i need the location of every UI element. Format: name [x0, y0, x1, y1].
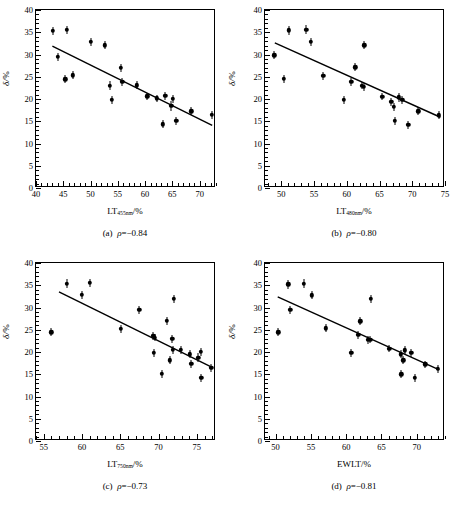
panel-caption-c: (c) ρ=−0.73	[35, 481, 215, 491]
x-tick-label: 60	[141, 190, 150, 199]
regression-line-c	[36, 263, 214, 439]
x-tick-label: 50	[86, 190, 95, 199]
x-tick-label: 40	[32, 190, 41, 199]
y-tick-label: 35	[254, 281, 263, 290]
x-axis-label: LT750nm/%	[35, 459, 215, 469]
scatter-panel-d: δ/%05101520253035405055606570EWLT/%(d) ρ…	[226, 253, 453, 506]
x-tick-label: 70	[413, 443, 422, 452]
x-tick-label: 65	[168, 190, 177, 199]
plot-area-c: 05101520253035405560657075	[35, 262, 215, 440]
x-axis-label: EWLT/%	[264, 459, 444, 469]
plot-area-d: 05101520253035405055606570	[264, 262, 444, 440]
x-axis-label: LT455nm/%	[35, 206, 215, 216]
y-tick-label: 15	[254, 370, 263, 379]
y-tick-label: 15	[25, 370, 34, 379]
x-tick-label: 75	[441, 190, 450, 199]
y-tick-label: 15	[25, 117, 34, 126]
x-tick-label: 60	[78, 443, 87, 452]
y-tick-label: 35	[25, 28, 34, 37]
x-tick	[445, 436, 446, 439]
y-tick-label: 15	[254, 117, 263, 126]
x-tick-label: 45	[59, 190, 68, 199]
panel-caption-a: (a) ρ=−0.84	[35, 228, 215, 238]
y-tick-label: 40	[25, 6, 34, 15]
y-tick-label: 40	[254, 6, 263, 15]
regression-line-d	[265, 263, 443, 439]
y-axis-label: δ/%	[227, 46, 237, 86]
x-tick-label: 55	[114, 190, 123, 199]
plot-area-a: 051015202530354040455055606570	[35, 9, 215, 187]
y-tick-label: 30	[254, 50, 263, 59]
figure-panel-grid: δ/%051015202530354040455055606570LT455nm…	[0, 0, 453, 506]
y-tick-label: 0	[258, 184, 262, 193]
x-tick-label: 60	[342, 443, 351, 452]
y-tick-label: 5	[258, 415, 262, 424]
y-axis-label: δ/%	[227, 299, 237, 339]
scatter-panel-c: δ/%05101520253035405560657075LT750nm/%(c…	[0, 253, 226, 506]
y-tick	[265, 441, 270, 442]
regression-line-b	[265, 10, 443, 186]
y-tick-label: 35	[25, 281, 34, 290]
y-tick-label: 25	[254, 326, 263, 335]
panel-caption-d: (d) ρ=−0.81	[264, 481, 444, 491]
x-axis-label: LT480nm/%	[264, 206, 444, 216]
x-tick-label: 65	[375, 190, 384, 199]
plot-area-b: 0510152025303540505560657075	[264, 9, 444, 187]
y-tick-label: 20	[25, 348, 34, 357]
x-tick-label: 55	[307, 443, 316, 452]
panel-caption-b: (b) ρ=−0.80	[264, 228, 444, 238]
y-tick-label: 30	[254, 303, 263, 312]
y-tick-label: 0	[258, 437, 262, 446]
x-tick	[445, 181, 446, 186]
x-tick-label: 75	[193, 443, 202, 452]
y-tick-label: 10	[254, 139, 263, 148]
y-tick-label: 20	[25, 95, 34, 104]
x-tick-label: 50	[271, 443, 280, 452]
x-tick-label: 70	[154, 443, 163, 452]
scatter-panel-b: δ/%0510152025303540505560657075LT480nm/%…	[226, 0, 453, 253]
y-tick-label: 30	[25, 303, 34, 312]
y-tick-label: 40	[254, 259, 263, 268]
y-tick-label: 10	[25, 139, 34, 148]
regression-line-a	[36, 10, 214, 186]
x-tick-label: 55	[39, 443, 48, 452]
y-tick-label: 10	[25, 392, 34, 401]
y-tick-label: 35	[254, 28, 263, 37]
y-tick-label: 5	[29, 415, 33, 424]
y-axis-label: δ/%	[1, 46, 11, 86]
y-tick-label: 5	[29, 162, 33, 171]
x-tick-label: 65	[377, 443, 386, 452]
y-tick-label: 20	[254, 95, 263, 104]
y-tick-label: 5	[258, 162, 262, 171]
x-tick-label: 70	[408, 190, 417, 199]
y-axis-label: δ/%	[1, 299, 11, 339]
x-tick-label: 65	[116, 443, 125, 452]
x-tick-label: 60	[343, 190, 352, 199]
y-tick-label: 0	[29, 437, 33, 446]
y-tick	[265, 188, 270, 189]
y-tick-label: 20	[254, 348, 263, 357]
y-tick-label: 40	[25, 259, 34, 268]
x-tick	[216, 183, 217, 186]
y-tick-label: 30	[25, 50, 34, 59]
x-tick-label: 55	[310, 190, 319, 199]
x-tick-label: 50	[277, 190, 286, 199]
y-tick-label: 25	[25, 326, 34, 335]
y-tick-label: 25	[25, 73, 34, 82]
x-tick-label: 70	[195, 190, 204, 199]
y-tick-label: 10	[254, 392, 263, 401]
scatter-panel-a: δ/%051015202530354040455055606570LT455nm…	[0, 0, 226, 253]
y-tick-label: 25	[254, 73, 263, 82]
